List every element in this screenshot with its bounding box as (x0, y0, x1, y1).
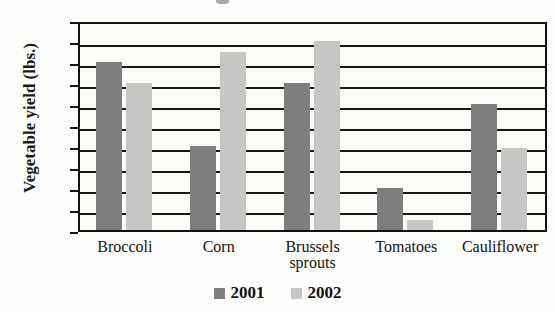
y-tick-mark (70, 22, 78, 24)
y-tick-mark (70, 211, 78, 213)
y-tick-mark (70, 190, 78, 192)
bar-2001-corn (190, 146, 216, 230)
gridline (80, 45, 545, 47)
x-category-label: Cauliflower (441, 239, 555, 255)
y-tick-mark (70, 232, 78, 234)
bar-2001-tomatoes (377, 188, 403, 230)
y-tick-mark (70, 43, 78, 45)
bar-2001-brussels-sprouts (284, 83, 310, 230)
legend-item-2001[interactable]: 2001 (214, 283, 265, 303)
bar-2002-tomatoes (407, 220, 433, 231)
chart-legend: 20012002 (0, 283, 555, 303)
bar-2002-broccoli (126, 83, 152, 230)
y-tick-mark (70, 85, 78, 87)
legend-item-2002[interactable]: 2002 (291, 283, 342, 303)
y-tick-mark (70, 64, 78, 66)
y-tick-mark (70, 148, 78, 150)
y-tick-mark (70, 127, 78, 129)
bar-chart: Vegetable yield (lbs.) 50454035302520151… (0, 0, 555, 312)
gridline (80, 66, 545, 68)
clipped-title-artifact (216, 0, 229, 4)
plot-area (78, 22, 547, 232)
bar-2001-cauliflower (471, 104, 497, 230)
legend-swatch-icon (291, 288, 302, 299)
bar-2002-brussels-sprouts (314, 41, 340, 230)
y-axis-title: Vegetable yield (lbs.) (20, 3, 40, 233)
y-tick-mark (70, 169, 78, 171)
bar-2002-cauliflower (501, 148, 527, 230)
legend-label: 2001 (231, 283, 265, 303)
legend-swatch-icon (214, 288, 225, 299)
legend-label: 2002 (308, 283, 342, 303)
bar-2002-corn (220, 52, 246, 231)
y-tick-mark (70, 106, 78, 108)
bar-2001-broccoli (96, 62, 122, 230)
